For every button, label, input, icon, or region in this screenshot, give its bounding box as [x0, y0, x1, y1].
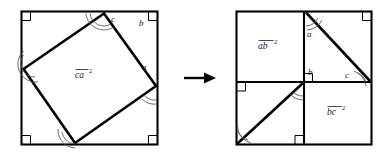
left-area-label-base: ca: [75, 70, 84, 80]
right-area-label-bc-base: bc: [327, 107, 337, 117]
right-arrow-icon: [184, 73, 216, 84]
right-area-label-ab-base: ab: [258, 41, 268, 51]
left-area-label-exponent: 2: [89, 67, 92, 74]
left-label-a: a: [142, 62, 147, 72]
right-label-a: a: [307, 29, 312, 39]
right-label-c: c: [345, 70, 349, 80]
left-label-b: b: [139, 18, 144, 28]
left-panel: c b a ca 2: [18, 12, 158, 149]
pythagorean-figure: c b a ca 2: [0, 0, 385, 156]
right-panel: a b c ab 2 bc 2: [237, 12, 372, 145]
left-label-c: c: [111, 14, 115, 24]
right-label-b: b: [308, 67, 313, 77]
right-area-label-bc-exponent: 2: [342, 104, 345, 111]
figure-canvas: c b a ca 2: [0, 0, 385, 156]
right-area-label-ab-exponent: 2: [274, 38, 277, 45]
left-outer-square: [22, 12, 158, 145]
